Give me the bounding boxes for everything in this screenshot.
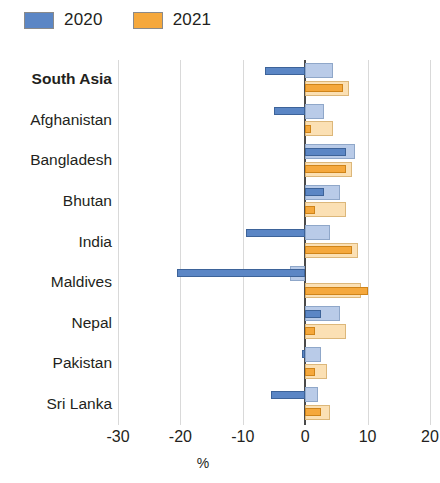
bar-dark-2020-bangladesh xyxy=(305,148,346,156)
category-label-bhutan: Bhutan xyxy=(0,192,112,210)
gridline-20 xyxy=(430,60,431,425)
bar-light-2020-india xyxy=(305,225,330,240)
bar-dark-2020-south-asia xyxy=(265,67,306,75)
x-tick-10: 10 xyxy=(359,428,377,446)
bar-dark-2021-sri-lanka xyxy=(305,408,321,416)
bar-dark-2020-india xyxy=(246,229,305,237)
legend-label-2021: 2021 xyxy=(173,10,212,30)
legend-swatch-2020 xyxy=(24,12,54,29)
x-tick--10: -10 xyxy=(231,428,254,446)
x-tick--20: -20 xyxy=(169,428,192,446)
bar-dark-2020-nepal xyxy=(305,310,321,318)
legend-label-2020: 2020 xyxy=(64,10,103,30)
category-label-sri-lanka: Sri Lanka xyxy=(0,395,112,413)
gridline--20 xyxy=(180,60,181,425)
category-label-nepal: Nepal xyxy=(0,314,112,332)
bar-dark-2020-sri-lanka xyxy=(271,391,305,399)
bar-dark-2021-nepal xyxy=(305,327,314,335)
category-label-maldives: Maldives xyxy=(0,273,112,291)
gridline--10 xyxy=(243,60,244,425)
x-tick-0: 0 xyxy=(301,428,310,446)
bar-dark-2021-afghanistan xyxy=(305,125,311,133)
bar-light-2020-south-asia xyxy=(305,63,333,78)
bar-dark-2021-pakistan xyxy=(305,368,314,376)
x-axis-title: % xyxy=(0,455,440,471)
bar-light-2020-sri-lanka xyxy=(305,387,317,402)
category-label-pakistan: Pakistan xyxy=(0,354,112,372)
x-axis-title-text: % xyxy=(197,455,209,471)
category-label-south-asia: South Asia xyxy=(0,70,112,88)
bar-dark-2020-pakistan xyxy=(302,350,305,358)
gridline--30 xyxy=(118,60,119,425)
x-tick-20: 20 xyxy=(421,428,439,446)
x-tick--30: -30 xyxy=(106,428,129,446)
bar-dark-2021-india xyxy=(305,246,352,254)
plot-area xyxy=(118,60,430,425)
bar-dark-2021-bangladesh xyxy=(305,165,346,173)
bar-dark-2020-maldives xyxy=(177,269,305,277)
bar-dark-2020-afghanistan xyxy=(274,107,305,115)
legend-item-2020: 2020 xyxy=(24,10,103,30)
bar-chart: 2020 2021 South AsiaAfghanistanBanglades… xyxy=(0,0,440,483)
chart-legend: 2020 2021 xyxy=(24,10,211,30)
legend-item-2021: 2021 xyxy=(133,10,212,30)
bar-dark-2021-bhutan xyxy=(305,206,314,214)
bar-dark-2020-bhutan xyxy=(305,188,324,196)
category-label-afghanistan: Afghanistan xyxy=(0,111,112,129)
bar-light-2020-afghanistan xyxy=(305,104,324,119)
category-label-bangladesh: Bangladesh xyxy=(0,151,112,169)
category-label-india: India xyxy=(0,233,112,251)
legend-swatch-2021 xyxy=(133,12,163,29)
bar-dark-2021-maldives xyxy=(305,287,367,295)
gridline-10 xyxy=(368,60,369,425)
bar-light-2020-pakistan xyxy=(305,347,321,362)
bar-dark-2021-south-asia xyxy=(305,84,342,92)
